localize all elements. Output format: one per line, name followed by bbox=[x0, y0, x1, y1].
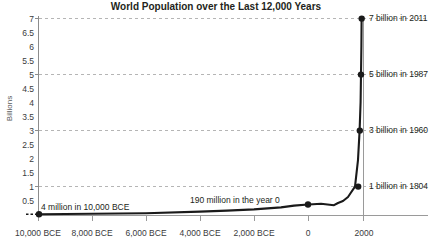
x-tick-4000-bce: 4,000 BCE bbox=[179, 228, 220, 238]
annotation-3-billion: 3 billion in 1960 bbox=[369, 125, 428, 135]
marker-190-million-year-0 bbox=[305, 201, 311, 207]
x-tick-10000-bce: 10,000 BCE bbox=[15, 228, 61, 238]
marker-5-billion-1987 bbox=[358, 71, 364, 77]
annotation-5-billion: 5 billion in 1987 bbox=[369, 69, 428, 79]
population-line bbox=[39, 19, 362, 215]
gridlines bbox=[39, 19, 428, 187]
marker-7-billion-2011 bbox=[359, 15, 365, 21]
annotation-7-billion: 7 billion in 2011 bbox=[369, 13, 427, 23]
x-tick-2000: 2000 bbox=[355, 228, 374, 238]
marker-1-billion-1804 bbox=[355, 183, 361, 189]
x-tick-6000-bce: 6,000 BCE bbox=[125, 228, 166, 238]
annotation-190-million: 190 million in the year 0 bbox=[190, 195, 280, 205]
annotation-4-million: 4 million in 10,000 BCE bbox=[41, 202, 129, 212]
x-tick-8000-bce: 8,000 BCE bbox=[71, 228, 112, 238]
population-chart: World Population over the Last 12,000 Ye… bbox=[0, 0, 432, 248]
marker-3-billion-1960 bbox=[357, 127, 363, 133]
x-tick-0: 0 bbox=[306, 228, 311, 238]
data-point-markers bbox=[36, 15, 365, 217]
annotation-1-billion: 1 billion in 1804 bbox=[369, 181, 428, 191]
x-tick-2000-bce: 2,000 BCE bbox=[233, 228, 274, 238]
